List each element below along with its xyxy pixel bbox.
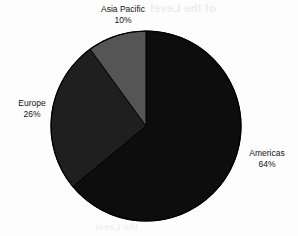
slice-label-americas-value: 64% [236,159,298,170]
slice-label-asia-pacific: Asia Pacific 10% [83,4,163,26]
slice-label-americas: Americas 64% [236,148,298,170]
slice-label-asia-pacific-value: 10% [83,15,163,26]
pie-chart-figure: of the Level the Level Asia Pacific 10% … [0,0,298,236]
slice-label-europe-name: Europe [2,98,62,109]
slice-label-europe: Europe 26% [2,98,62,120]
slice-label-americas-name: Americas [236,148,298,159]
slice-label-europe-value: 26% [2,109,62,120]
slice-label-asia-pacific-name: Asia Pacific [83,4,163,15]
